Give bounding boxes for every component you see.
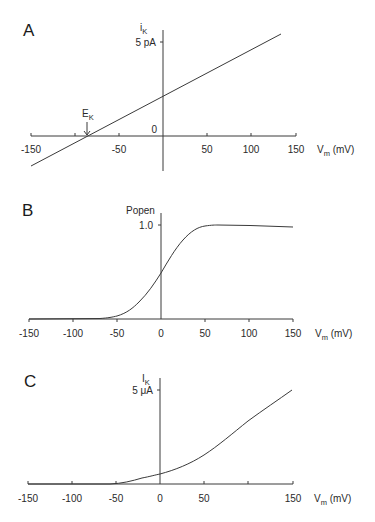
panel-b-x-tick-label: -50 <box>110 328 125 339</box>
panel-c-x-tick-label: -150 <box>18 493 38 504</box>
panel-c-x-tick-label: 50 <box>198 493 210 504</box>
panel-a-x-tick-label: 100 <box>243 144 260 155</box>
panel-b-y-tick-label: 1.0 <box>139 220 153 231</box>
panel-c-x-tick-label: -50 <box>109 493 124 504</box>
panel-b-x-tick-label: -100 <box>63 328 83 339</box>
panel-b-x-tick-label: 50 <box>199 328 211 339</box>
panel-b-x-tick-label: 150 <box>285 328 302 339</box>
panel-a-letter: A <box>23 21 35 40</box>
panel-a-x-tick-label: 50 <box>201 144 213 155</box>
panel-a-y-label: iK <box>140 22 147 36</box>
panel-b-x-tick-label: 100 <box>241 328 258 339</box>
panel-c-letter: C <box>24 372 36 391</box>
panel-c-x-tick-label: 150 <box>285 493 302 504</box>
panel-a-x-tick-label: -150 <box>21 144 41 155</box>
panel-b-x-label: Vm (mV) <box>315 328 352 342</box>
panel-a-x-tick-label: 150 <box>288 144 305 155</box>
panel-a-y-tick-label: 5 pA <box>135 37 156 48</box>
panel-a-x-tick-label: -50 <box>112 144 127 155</box>
panel-a: A iK 5 pA 0 -150 -50 50 100 150 Vm (mV) … <box>21 21 354 171</box>
ek-arrow-icon <box>84 122 90 135</box>
panel-c-y-tick-label: 5 μA <box>132 385 153 396</box>
panel-a-origin-label: 0 <box>151 124 157 135</box>
panel-a-ek-label: EK <box>82 108 94 122</box>
panel-b-y-label: Popen <box>126 205 155 216</box>
panel-c: C IK 5 μA -150 -100 -50 0 50 150 Vm (mV) <box>18 372 351 507</box>
panel-b-x-tick-label: -150 <box>19 328 39 339</box>
panel-c-x-tick-label: -100 <box>62 493 82 504</box>
figure: A iK 5 pA 0 -150 -50 50 100 150 Vm (mV) … <box>0 0 375 522</box>
panel-b-letter: B <box>22 201 33 220</box>
panel-c-x-tick-label: 0 <box>157 493 163 504</box>
panel-b-x-tick-label: 0 <box>158 328 164 339</box>
panel-b: B Popen 1.0 -150 -100 -50 0 50 100 150 V… <box>19 201 352 342</box>
panel-a-x-label: Vm (mV) <box>317 144 354 158</box>
panel-c-x-label: Vm (mV) <box>314 493 351 507</box>
